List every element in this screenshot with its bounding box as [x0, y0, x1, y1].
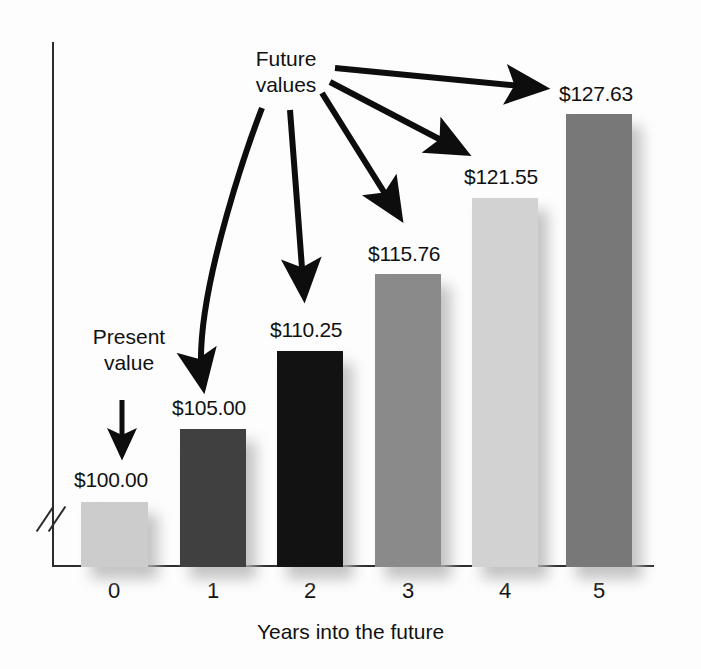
value-label-year-0: $100.00	[74, 468, 148, 492]
bar-year-3	[375, 274, 441, 567]
bar-body	[81, 502, 148, 567]
arrow-future-to-year-4	[330, 82, 464, 152]
value-label-year-5: $127.63	[559, 82, 633, 106]
value-label-year-3: $115.76	[368, 242, 440, 266]
bar-body	[180, 429, 246, 567]
value-label-year-4: $121.55	[464, 165, 538, 189]
bar-body	[375, 274, 441, 567]
bar-year-0	[81, 502, 148, 567]
bar-body	[277, 351, 343, 567]
x-tick-label-0: 0	[94, 578, 134, 604]
present-value-annotation: Present value	[64, 324, 194, 376]
present-value-line-2: value	[64, 350, 194, 376]
arrow-future-to-year-5	[335, 68, 542, 88]
value-label-year-2: $110.25	[270, 318, 342, 342]
present-value-line-1: Present	[64, 324, 194, 350]
arrow-future-to-year-1	[201, 108, 262, 386]
arrow-future-to-year-3	[322, 93, 399, 216]
x-tick-label-5: 5	[579, 578, 619, 604]
y-axis-line	[52, 42, 54, 567]
arrow-future-to-year-2	[290, 110, 304, 295]
bar-body	[566, 114, 632, 567]
bar-year-2	[277, 351, 343, 567]
x-tick-label-1: 1	[193, 578, 233, 604]
future-values-annotation: Future values	[236, 46, 336, 98]
axis-break-icon	[36, 498, 70, 542]
future-values-line-1: Future	[236, 46, 336, 72]
bar-year-4	[472, 198, 538, 567]
future-values-line-2: values	[236, 72, 336, 98]
x-tick-label-3: 3	[388, 578, 428, 604]
x-tick-label-2: 2	[290, 578, 330, 604]
future-value-bar-chart: $100.00 $105.00 $110.25 $115.76 $121.55 …	[0, 0, 701, 669]
x-tick-label-4: 4	[485, 578, 525, 604]
value-label-year-1: $105.00	[172, 396, 246, 420]
bar-year-1	[180, 429, 246, 567]
bar-year-5	[566, 114, 632, 567]
x-axis-title: Years into the future	[0, 620, 701, 644]
bar-body	[472, 198, 538, 567]
